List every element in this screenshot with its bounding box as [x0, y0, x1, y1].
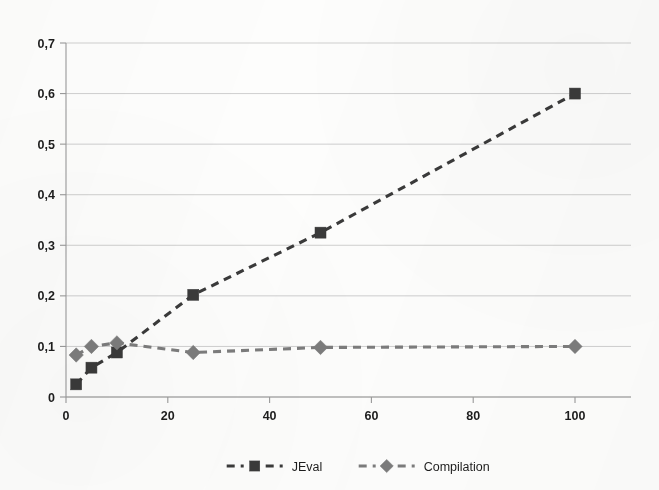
y-tick-label: 0,5	[38, 138, 55, 152]
data-point-marker-diamond	[313, 340, 327, 354]
series-compilation	[69, 336, 582, 363]
data-point-marker-square	[315, 227, 326, 238]
chart-legend: JEvalCompilation	[227, 459, 490, 473]
data-point-marker-diamond	[186, 345, 200, 359]
data-point-marker-square	[86, 362, 97, 373]
x-tick-label: 40	[263, 409, 277, 423]
y-tick-label: 0,1	[38, 340, 55, 354]
gridlines	[66, 43, 631, 397]
x-axis-ticks: 020406080100	[63, 397, 586, 423]
x-tick-label: 80	[466, 409, 480, 423]
data-point-marker-diamond	[568, 339, 582, 353]
data-point-marker-square	[570, 88, 581, 99]
data-point-marker-diamond	[380, 459, 393, 472]
y-tick-label: 0,4	[38, 188, 55, 202]
data-point-marker-diamond	[69, 348, 83, 362]
y-tick-label: 0,2	[38, 289, 55, 303]
y-tick-label: 0,3	[38, 239, 55, 253]
chart-figure: 00,10,20,30,40,50,60,7 020406080100 JEva…	[0, 0, 659, 490]
legend-item-compilation[interactable]: Compilation	[359, 459, 490, 473]
y-tick-label: 0	[48, 391, 55, 405]
y-axis-ticks: 00,10,20,30,40,50,60,7	[38, 37, 66, 405]
legend-label: JEval	[292, 460, 323, 474]
data-point-marker-diamond	[84, 339, 98, 353]
x-tick-label: 20	[161, 409, 175, 423]
axis-lines	[66, 43, 631, 397]
series-jeval	[71, 88, 581, 390]
series-line	[76, 94, 575, 385]
x-tick-label: 0	[63, 409, 70, 423]
x-tick-label: 100	[565, 409, 586, 423]
legend-label: Compilation	[424, 460, 490, 474]
data-series-group	[69, 88, 582, 390]
line-chart-plot: 00,10,20,30,40,50,60,7 020406080100 JEva…	[0, 0, 659, 490]
data-point-marker-square	[188, 289, 199, 300]
y-tick-label: 0,6	[38, 87, 55, 101]
y-tick-label: 0,7	[38, 37, 55, 51]
x-tick-label: 60	[364, 409, 378, 423]
data-point-marker-square	[250, 461, 260, 471]
legend-item-jeval[interactable]: JEval	[227, 460, 323, 474]
data-point-marker-square	[71, 379, 82, 390]
